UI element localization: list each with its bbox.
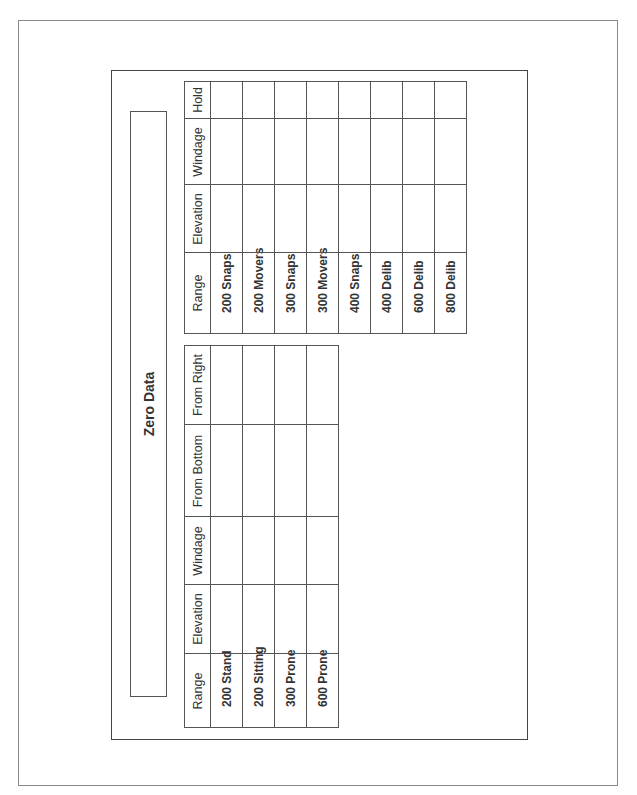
range-label-cell: 600 Prone <box>306 653 339 728</box>
header-label: Elevation <box>191 193 205 244</box>
column-header: Range <box>184 252 211 334</box>
header-label: Windage <box>191 127 205 176</box>
data-cell <box>210 184 243 253</box>
data-cell <box>274 345 307 425</box>
range-label-cell: 300 Snaps <box>274 252 307 334</box>
data-cell <box>210 81 243 119</box>
header-label: Hold <box>191 87 205 113</box>
range-label-cell: 600 Delib <box>402 252 435 334</box>
range-label-cell: 800 Delib <box>434 252 467 334</box>
data-cell <box>338 184 371 253</box>
data-cell <box>370 118 403 185</box>
header-label: Range <box>191 672 205 709</box>
range-label-cell: 200 Movers <box>242 252 275 334</box>
column-header: Windage <box>184 516 211 585</box>
header-label: From Bottom <box>191 434 205 506</box>
column-header: From Bottom <box>184 424 211 517</box>
data-cell <box>306 424 339 517</box>
range-label-cell: 300 Movers <box>306 252 339 334</box>
data-cell <box>242 118 275 185</box>
data-cell <box>274 184 307 253</box>
data-cell <box>242 345 275 425</box>
range-label: 200 Stand <box>220 650 234 707</box>
column-header: Windage <box>184 118 211 185</box>
range-label: 300 Prone <box>284 650 298 707</box>
column-header: Elevation <box>184 584 211 654</box>
data-cell <box>338 118 371 185</box>
data-cell <box>210 118 243 185</box>
range-label: 400 Snaps <box>348 254 362 313</box>
data-cell <box>370 184 403 253</box>
range-label-cell: 200 Snaps <box>210 252 243 334</box>
data-cell <box>242 424 275 517</box>
range-label: 200 Movers <box>252 248 266 313</box>
data-cell <box>242 184 275 253</box>
data-cell <box>306 118 339 185</box>
header-label: Range <box>191 275 205 312</box>
range-label-cell: 300 Prone <box>274 653 307 728</box>
data-cell <box>338 81 371 119</box>
data-cell <box>402 184 435 253</box>
data-cell <box>242 81 275 119</box>
data-cell <box>306 81 339 119</box>
data-cell <box>274 584 307 654</box>
data-cell <box>306 184 339 253</box>
column-header: From Right <box>184 345 211 425</box>
data-cell <box>402 118 435 185</box>
range-label-cell: 400 Snaps <box>338 252 371 334</box>
data-cell <box>306 584 339 654</box>
header-label: Elevation <box>191 593 205 644</box>
range-label: 400 Delib <box>380 260 394 313</box>
range-label: 300 Movers <box>316 248 330 313</box>
data-cell <box>306 345 339 425</box>
data-cell <box>306 516 339 585</box>
header-label: Windage <box>191 526 205 575</box>
range-label-cell: 200 Sitting <box>242 653 275 728</box>
data-cell <box>434 81 467 119</box>
header-label: From Right <box>191 354 205 416</box>
data-cell <box>274 118 307 185</box>
page-title: Zero Data <box>141 372 157 437</box>
data-cell <box>274 516 307 585</box>
column-header: Range <box>184 653 211 728</box>
range-label: 200 Snaps <box>220 254 234 313</box>
range-label: 200 Sitting <box>252 646 266 707</box>
data-cell <box>274 81 307 119</box>
range-label: 800 Delib <box>444 260 458 313</box>
data-cell <box>242 584 275 654</box>
data-cell <box>370 81 403 119</box>
data-cell <box>210 345 243 425</box>
column-header: Elevation <box>184 184 211 253</box>
range-label-cell: 400 Delib <box>370 252 403 334</box>
data-cell <box>434 118 467 185</box>
data-cell <box>210 584 243 654</box>
column-header: Hold <box>184 81 211 119</box>
data-cell <box>434 184 467 253</box>
range-label-cell: 200 Stand <box>210 653 243 728</box>
data-cell <box>242 516 275 585</box>
data-cell <box>210 424 243 517</box>
data-cell <box>210 516 243 585</box>
title-box: Zero Data <box>130 111 167 697</box>
data-cell <box>402 81 435 119</box>
range-label: 600 Prone <box>316 650 330 707</box>
data-cell <box>274 424 307 517</box>
range-label: 300 Snaps <box>284 254 298 313</box>
range-label: 600 Delib <box>412 260 426 313</box>
